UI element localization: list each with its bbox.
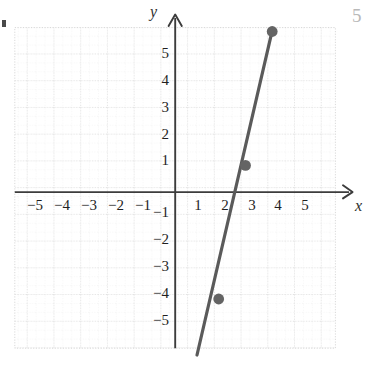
x-tick-label-4: 4 xyxy=(266,198,290,213)
y-tick-label-neg5: −5 xyxy=(142,313,169,328)
x-tick-label-1: 1 xyxy=(186,198,210,213)
point-2-neg4 xyxy=(213,294,224,305)
x-tick-label-5: 5 xyxy=(293,198,317,213)
x-tick-label-neg4: −4 xyxy=(50,198,74,213)
y-tick-label-neg4: −4 xyxy=(142,286,169,301)
x-tick-label-neg5: −5 xyxy=(23,198,47,213)
y-tick-label-neg1: −1 xyxy=(142,205,169,220)
y-tick-label-4: 4 xyxy=(147,73,169,88)
y-tick-label-1: 1 xyxy=(147,153,169,168)
y-tick-label-3: 3 xyxy=(147,100,169,115)
x-tick-label-neg3: −3 xyxy=(77,198,101,213)
y-tick-label-neg3: −3 xyxy=(142,259,169,274)
coordinate-plane xyxy=(0,0,385,367)
x-axis-label: x xyxy=(355,198,362,214)
graph-figure: 5 xyxy=(0,0,385,367)
x-tick-label-3: 3 xyxy=(240,198,264,213)
point-4-6 xyxy=(267,26,278,37)
y-tick-label-neg2: −2 xyxy=(142,232,169,247)
point-3-1 xyxy=(240,160,251,171)
y-tick-label-2: 2 xyxy=(147,127,169,142)
x-tick-label-2: 2 xyxy=(213,198,237,213)
x-tick-label-neg2: −2 xyxy=(104,198,128,213)
y-axis-label: y xyxy=(150,4,157,20)
y-tick-label-5: 5 xyxy=(147,46,169,61)
